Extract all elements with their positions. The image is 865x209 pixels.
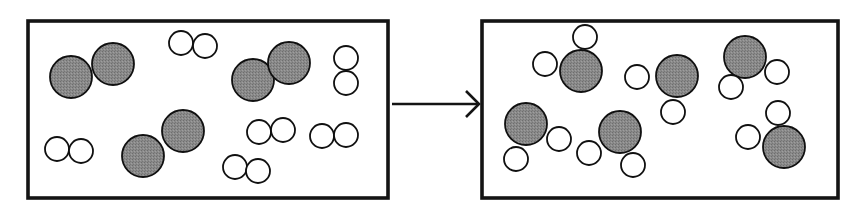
white-atom (334, 46, 358, 70)
white-atom (719, 75, 743, 99)
white-atom (169, 31, 193, 55)
gray-atom (268, 42, 310, 84)
white-atom (621, 153, 645, 177)
white-atom (271, 118, 295, 142)
white-atom (766, 101, 790, 125)
reaction-diagram-scene (0, 0, 865, 209)
white-atom (533, 52, 557, 76)
white-atom (547, 127, 571, 151)
white-atom (625, 65, 649, 89)
white-atom (504, 147, 528, 171)
white-atom (247, 120, 271, 144)
gray-atom (599, 111, 641, 153)
white-atom (661, 100, 685, 124)
reactant-box (28, 21, 388, 198)
white-atom (573, 25, 597, 49)
white-atom (310, 124, 334, 148)
gray-atom (560, 50, 602, 92)
reaction-diagram (0, 0, 865, 209)
gray-atom (50, 56, 92, 98)
product-box (482, 21, 838, 198)
gray-atom (162, 110, 204, 152)
white-atom (736, 125, 760, 149)
gray-atom (122, 135, 164, 177)
white-atom (334, 71, 358, 95)
reaction-arrow-group (392, 91, 479, 117)
white-atom (45, 137, 69, 161)
white-atom (577, 141, 601, 165)
white-atom (193, 34, 217, 58)
gray-atom (656, 55, 698, 97)
white-atom (765, 60, 789, 84)
white-atom (334, 123, 358, 147)
white-atom (223, 155, 247, 179)
gray-atom (763, 126, 805, 168)
gray-atom (505, 103, 547, 145)
panels-layer (28, 21, 838, 198)
white-atom (246, 159, 270, 183)
gray-atom (724, 36, 766, 78)
gray-atom (92, 43, 134, 85)
white-atom (69, 139, 93, 163)
